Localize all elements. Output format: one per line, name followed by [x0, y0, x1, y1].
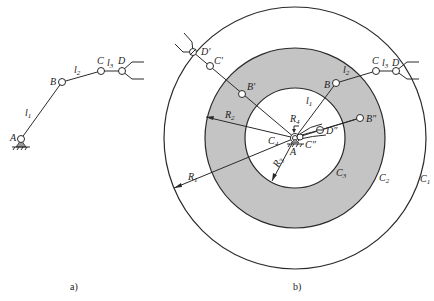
- r4-marker: [292, 126, 299, 133]
- label-l2: l2: [74, 64, 81, 77]
- label-a: A: [9, 132, 17, 143]
- label-l1: l1: [25, 107, 31, 120]
- figure-b-workspace: D′ C′ B′ B C D B″ D″ C″ A l1 l2 l3 R1 R2…: [164, 7, 430, 293]
- label-c1: C1: [420, 173, 430, 186]
- label-b: B: [324, 79, 330, 90]
- label-d-dprime: D″: [325, 125, 338, 136]
- joint-d: [393, 68, 400, 75]
- label-r3: R3: [270, 155, 287, 171]
- joint-c: [98, 68, 105, 75]
- label-a: A: [289, 146, 297, 157]
- caption-b: b): [293, 281, 301, 293]
- label-d: D: [117, 55, 126, 66]
- label-c: C: [372, 55, 379, 66]
- joint-b: [59, 79, 66, 86]
- link-l2: [62, 71, 101, 82]
- label-r4: R4: [289, 113, 300, 126]
- caption-a: a): [70, 281, 78, 293]
- label-c-dprime: C″: [305, 139, 317, 150]
- joint-b: [333, 80, 340, 87]
- label-b-dprime: B″: [366, 113, 377, 124]
- label-l3: l3: [382, 57, 389, 70]
- label-b: B: [50, 76, 56, 87]
- joint-c: [373, 68, 380, 75]
- label-d: D: [391, 57, 400, 68]
- label-c2: C2: [379, 172, 390, 185]
- label-l3: l3: [107, 57, 114, 70]
- robot-arm-workspace-diagram: A B C D l1 l2 l3 a): [0, 0, 434, 301]
- joint-b-dprime: [357, 115, 364, 122]
- label-c4: C4: [268, 135, 279, 148]
- joint-b-prime: [239, 91, 246, 98]
- joint-a: [18, 136, 25, 143]
- label-c: C: [97, 55, 104, 66]
- joint-d: [119, 68, 126, 75]
- label-l1: l1: [306, 95, 312, 108]
- figure-a-arm: A B C D l1 l2 l3 a): [9, 55, 144, 293]
- label-b-prime: B′: [247, 81, 256, 92]
- label-c-prime: C′: [214, 55, 224, 66]
- label-d-prime: D′: [200, 46, 211, 57]
- joint-c-prime: [207, 63, 214, 70]
